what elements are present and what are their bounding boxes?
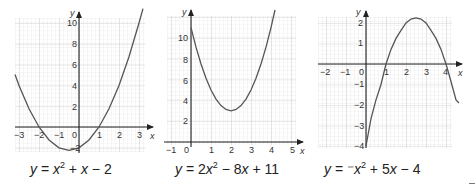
y-tick: 10 [67,18,77,28]
eq-text: − 2 [88,161,112,177]
x-tick: −2 [320,67,330,77]
x-tick: 2 [229,145,234,155]
x-axis-label: x [299,146,305,156]
y-tick: 8 [72,39,77,49]
graph-2: y x −1 0 1 2 3 4 5 10 8 6 4 2 [164,7,305,156]
x-tick: −2 [34,130,44,140]
y-tick: 4 [183,96,188,106]
x-tick: 1 [209,145,214,155]
eq-text: = 2 [182,161,206,177]
x-tick: 0 [359,67,364,77]
eq-text: = ⁻ [331,161,354,177]
y-tick: 8 [183,55,188,65]
graph-3: y x −2 −1 0 1 2 3 4 2 1 −1 −2 −3 −4 [318,7,463,151]
x-tick: −3 [14,130,24,140]
y-tick: 1 [358,38,363,48]
eq-text: = [37,161,53,177]
x-tick: 3 [424,67,429,77]
x-tick: −1 [340,67,350,77]
eq-var-y: y [30,161,37,177]
eq-var-x: x [81,161,88,177]
x-axis-label: x [149,131,155,141]
y-tick: 2 [72,102,77,112]
x-tick: 2 [404,67,409,77]
edge-mark [469,183,475,184]
y-tick: −1 [354,79,364,89]
equation-graph-2: y = 2x2 − 8x + 11 [175,160,279,177]
x-tick: −1 [166,145,176,155]
x-tick: 2 [117,130,122,140]
eq-text: − 4 [397,161,421,177]
y-axis-label: y [355,7,361,17]
eq-text: + [65,161,81,177]
y-tick: 6 [72,60,77,70]
y-tick: −4 [354,141,364,151]
y-tick: 10 [178,33,188,43]
grid-major [318,17,452,148]
y-tick: 6 [183,76,188,86]
eq-var-y: y [324,161,331,177]
x-tick: 1 [97,130,102,140]
eq-var-x: x [242,161,249,177]
x-tick: −1 [54,130,64,140]
x-axis-label: x [457,68,463,78]
eq-var-y: y [175,161,182,177]
eq-var-x: x [206,161,213,177]
y-tick: 4 [72,81,77,91]
x-tick: 4 [269,145,274,155]
y-tick: 2 [358,18,363,28]
equation-graph-1: y = x2 + x − 2 [30,160,112,177]
graphs-canvas: y x −3 −2 −1 0 1 2 3 10 8 6 4 2 −2 y x −… [0,0,476,187]
eq-var-x: x [53,161,60,177]
graph-1: y x −3 −2 −1 0 1 2 3 10 8 6 4 2 −2 [14,8,155,153]
equation-graph-3: y = ⁻x2 + 5x − 4 [324,160,420,177]
x-tick: 4 [443,67,448,77]
eq-var-x: x [390,161,397,177]
eq-var-x: x [354,161,361,177]
eq-text: + 11 [249,161,280,177]
y-tick: −2 [70,143,80,153]
x-tick: 0 [72,130,77,140]
y-tick: −2 [354,100,364,110]
x-tick: 5 [290,145,295,155]
eq-text: + 5 [366,161,390,177]
y-tick: 2 [183,116,188,126]
y-tick: −3 [354,121,364,131]
x-tick: 3 [249,145,254,155]
x-tick: 3 [137,130,142,140]
x-tick: 1 [384,67,389,77]
y-axis-label: y [181,7,187,17]
eq-text: − 8 [218,161,242,177]
y-axis-label: y [69,8,75,18]
x-tick: 0 [184,145,189,155]
